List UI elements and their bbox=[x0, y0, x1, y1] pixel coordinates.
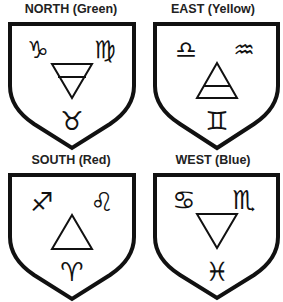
shield-east: ♎ ♒ ♊ bbox=[142, 0, 283, 151]
panel-west: WEST (Blue) ♋ ♏ ♓ bbox=[142, 151, 283, 302]
cancer-icon: ♋ bbox=[172, 185, 195, 215]
leo-icon: ♌ bbox=[90, 187, 113, 217]
panel-north: NORTH (Green) ♑ ♍ ♉ bbox=[0, 0, 142, 151]
libra-icon: ♎ bbox=[175, 36, 197, 64]
shield-west: ♋ ♏ ♓ bbox=[142, 151, 283, 302]
shield-north: ♑ ♍ ♉ bbox=[0, 0, 142, 151]
panel-east: EAST (Yellow) ♎ ♒ ♊ bbox=[142, 0, 283, 151]
sagittarius-icon: ♐ bbox=[30, 187, 53, 217]
aries-icon: ♈ bbox=[60, 257, 83, 287]
capricorn-icon: ♑ bbox=[27, 36, 49, 64]
taurus-icon: ♉ bbox=[60, 106, 83, 136]
scorpio-icon: ♏ bbox=[232, 185, 255, 215]
aquarius-icon: ♒ bbox=[233, 36, 255, 64]
panel-south: SOUTH (Red) ♐ ♌ ♈ bbox=[0, 151, 142, 302]
pisces-icon: ♓ bbox=[205, 257, 228, 287]
gemini-icon: ♊ bbox=[205, 106, 228, 136]
virgo-icon: ♍ bbox=[94, 36, 116, 64]
shield-south: ♐ ♌ ♈ bbox=[0, 151, 142, 302]
